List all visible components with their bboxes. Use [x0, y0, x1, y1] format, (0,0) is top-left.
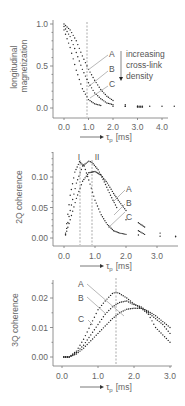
y-tick-label: 0.01 [31, 323, 48, 333]
annotation: increasing cross-link density [126, 49, 167, 81]
leader-line-b [87, 297, 105, 313]
arrow-head-icon [100, 135, 104, 139]
panel-3q-coherence: 3Q coherence 0.02 0.01 0.00 0.0 1.0 2.0 … [10, 278, 176, 393]
x-tick-label: 3.0 [164, 371, 176, 381]
arrow-head-icon [100, 385, 104, 389]
data-points [65, 160, 176, 237]
x-tick-label: 1.0 [89, 251, 101, 261]
x-tick-label: 4.0 [156, 122, 168, 132]
y-tick-label: 0.02 [31, 293, 48, 303]
series-label-a: A [126, 184, 132, 194]
svg-text:τp[ms]: τp[ms] [106, 132, 132, 143]
reference-label-ii: II [95, 152, 100, 162]
y-axis-title: 3Q coherence [10, 293, 20, 347]
panel-2q-coherence: 2Q coherence 0.10 0.05 0.00 0.0 1.0 2.0 … [14, 152, 178, 272]
panel-longitudinal-magnetization: longitudinal magnetization 1.0 0.5 0.0 0… [9, 19, 175, 143]
y-ticks [50, 283, 53, 357]
series-label-a: A [109, 49, 115, 59]
series-label-b: B [109, 64, 115, 74]
leader-line-a [113, 190, 125, 202]
y-axis-title: longitudinal magnetization [9, 39, 29, 92]
leader-line-a [88, 55, 108, 70]
x-tick-label: 3.0 [132, 122, 144, 132]
leader-line-c [108, 212, 125, 228]
y-tick-label: 0.0 [36, 103, 48, 113]
y-tick-label: 0.00 [31, 352, 48, 362]
series-label-c: C [126, 212, 132, 222]
reference-label-i: I [78, 152, 80, 162]
y-ticks [50, 24, 53, 108]
x-tick-label: 0.0 [58, 251, 70, 261]
series-label-c: C [109, 79, 115, 89]
x-axis-title: τp[ms] [80, 261, 132, 272]
leader-line-a [87, 284, 124, 316]
y-ticks [50, 153, 53, 238]
x-axis-title: τp[ms] [80, 382, 132, 393]
x-tick-label: 2.0 [128, 371, 140, 381]
svg-text:τp[ms]: τp[ms] [106, 382, 132, 393]
y-tick-label: 0.5 [36, 61, 48, 71]
series-label-b: B [78, 293, 84, 303]
y-tick-label: 0.05 [31, 203, 48, 213]
y-tick-label: 0.10 [31, 172, 48, 182]
y-tick-label: 1.0 [36, 19, 48, 29]
x-tick-label: 2.0 [107, 122, 119, 132]
x-tick-label: 1.0 [92, 371, 104, 381]
x-tick-label: 3.0 [151, 251, 163, 261]
x-tick-label: 2.0 [120, 251, 132, 261]
series-label-a: A [78, 279, 84, 289]
arrow-head-icon [100, 264, 104, 268]
y-axis-title: 2Q coherence [14, 170, 24, 224]
y-tick-label: 0.00 [31, 233, 48, 243]
series-label-c: C [78, 314, 84, 324]
series-label-b: B [126, 198, 132, 208]
x-tick-label: 0.0 [56, 371, 68, 381]
x-tick-label: 0.0 [58, 122, 70, 132]
x-axis-title: τp[ms] [80, 132, 132, 143]
arrow-head-icon [119, 77, 123, 81]
x-tick-label: 1.0 [83, 122, 95, 132]
figure: longitudinal magnetization 1.0 0.5 0.0 0… [0, 0, 185, 406]
svg-text:τp[ms]: τp[ms] [106, 261, 132, 272]
